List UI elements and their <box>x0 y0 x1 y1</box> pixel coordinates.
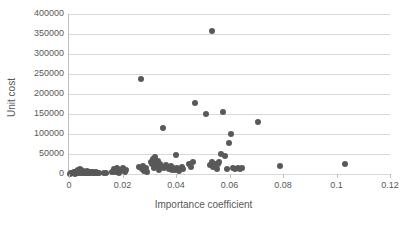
data-point <box>190 159 196 165</box>
y-tick-label: 200000 <box>34 89 64 98</box>
x-tick-label: 0.04 <box>167 180 185 190</box>
scatter-chart: Unit cost 050000100000150000200000250000… <box>0 0 407 226</box>
x-tick-label: 0.1 <box>330 180 343 190</box>
data-point <box>138 76 144 82</box>
x-tick-label: 0.08 <box>274 180 292 190</box>
x-tick-mark <box>337 174 338 178</box>
data-point <box>103 170 109 176</box>
data-point <box>173 152 179 158</box>
y-tick-label: 300000 <box>34 49 64 58</box>
x-tick-mark <box>123 174 124 178</box>
y-axis-tick-labels: 0500001000001500002000002500003000003500… <box>0 0 64 226</box>
gridline-y <box>69 54 390 55</box>
y-tick-label: 0 <box>59 169 64 178</box>
x-axis-title: Importance coefficient <box>0 199 407 210</box>
data-point <box>226 140 232 146</box>
data-point <box>222 153 228 159</box>
x-tick-mark <box>283 174 284 178</box>
gridline-y <box>69 154 390 155</box>
y-tick-label: 400000 <box>34 9 64 18</box>
y-tick-label: 50000 <box>39 149 64 158</box>
x-tick-label: 0.02 <box>114 180 132 190</box>
data-point <box>192 100 198 106</box>
data-point <box>203 111 209 117</box>
y-tick-label: 350000 <box>34 29 64 38</box>
x-tick-mark <box>69 174 70 178</box>
data-point <box>277 163 283 169</box>
data-point <box>160 125 166 131</box>
x-tick-mark <box>230 174 231 178</box>
data-point <box>180 166 186 172</box>
gridline-y <box>69 94 390 95</box>
data-point <box>228 131 234 137</box>
data-point <box>342 161 348 167</box>
data-point <box>220 109 226 115</box>
plot-area <box>69 14 390 174</box>
x-tick-mark <box>176 174 177 178</box>
y-tick-label: 100000 <box>34 129 64 138</box>
data-point <box>144 169 150 175</box>
x-tick-label: 0.12 <box>381 180 399 190</box>
data-point <box>255 119 261 125</box>
y-tick-label: 150000 <box>34 109 64 118</box>
data-point <box>123 167 129 173</box>
gridline-y <box>69 74 390 75</box>
x-tick-label: 0 <box>66 180 71 190</box>
data-point <box>216 159 222 165</box>
gridline-y <box>69 14 390 15</box>
x-tick-label: 0.06 <box>221 180 239 190</box>
data-point <box>209 28 215 34</box>
x-tick-mark <box>390 174 391 178</box>
data-point <box>239 165 245 171</box>
y-tick-label: 250000 <box>34 69 64 78</box>
gridline-y <box>69 34 390 35</box>
gridline-y <box>69 114 390 115</box>
